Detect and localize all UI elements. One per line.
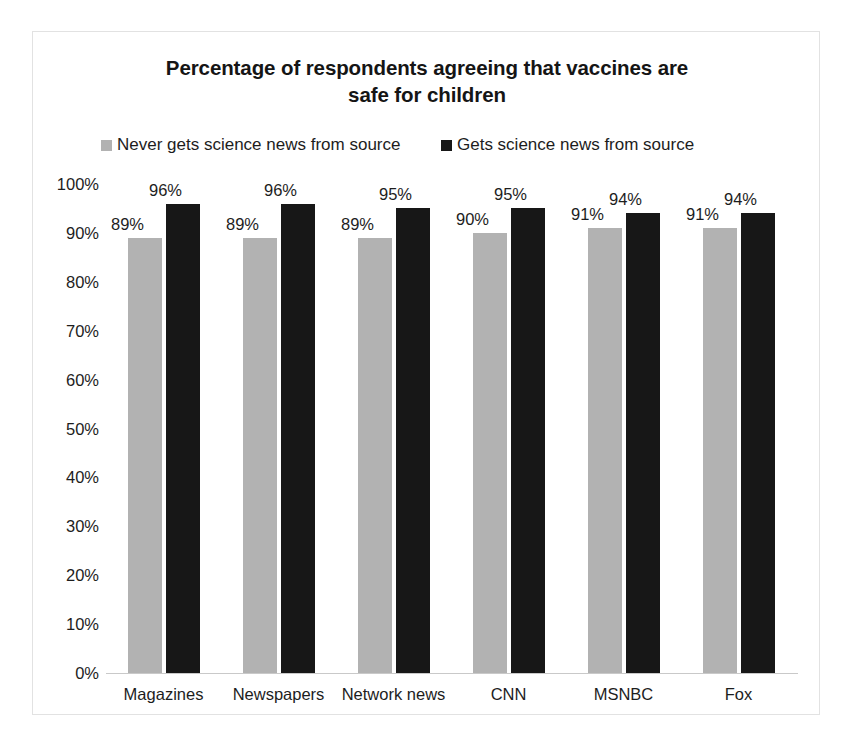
bar-gets-science-news[interactable] [166, 204, 200, 673]
chart-title-line-1: Percentage of respondents agreeing that … [166, 56, 688, 79]
y-axis-tick-label: 90% [45, 223, 99, 242]
bar-group: 90%95% [473, 184, 545, 673]
bar-never-gets-science-news[interactable] [128, 238, 162, 673]
legend-swatch-gets-science-news [441, 140, 452, 151]
bar-value-label: 89% [102, 215, 154, 234]
bar-gets-science-news[interactable] [511, 208, 545, 673]
y-axis: 100%90%80%70%60%50%40%30%20%10%0% [41, 184, 99, 673]
x-axis-category-label: Fox [725, 685, 753, 704]
legend-label-gets-science-news: Gets science news from source [457, 135, 694, 155]
y-axis-tick-label: 0% [45, 664, 99, 683]
bar-gets-science-news[interactable] [396, 208, 430, 673]
bar-value-label: 95% [370, 185, 422, 204]
y-axis-tick-label: 60% [45, 370, 99, 389]
bar-never-gets-science-news[interactable] [588, 228, 622, 673]
bar-value-label: 94% [715, 190, 767, 209]
bar-never-gets-science-news[interactable] [358, 238, 392, 673]
legend-item-never-gets-science-news[interactable]: Never gets science news from source [101, 135, 400, 155]
bar-group: 89%96% [243, 184, 315, 673]
bar-never-gets-science-news[interactable] [703, 228, 737, 673]
bar-gets-science-news[interactable] [626, 213, 660, 673]
bar-value-label: 89% [332, 215, 384, 234]
legend-swatch-never-gets-science-news [101, 140, 112, 151]
bar-value-label: 94% [600, 190, 652, 209]
bar-gets-science-news[interactable] [741, 213, 775, 673]
bar-never-gets-science-news[interactable] [243, 238, 277, 673]
chart-card: Percentage of respondents agreeing that … [32, 31, 820, 715]
y-axis-tick-label: 80% [45, 272, 99, 291]
bar-group: 89%96% [128, 184, 200, 673]
x-axis-category-label: MSNBC [594, 685, 654, 704]
y-axis-tick-label: 10% [45, 615, 99, 634]
bar-value-label: 96% [140, 181, 192, 200]
chart-title: Percentage of respondents agreeing that … [93, 54, 761, 108]
chart-title-line-2: safe for children [348, 83, 506, 106]
legend-label-never-gets-science-news: Never gets science news from source [117, 135, 400, 155]
x-axis-line [106, 673, 798, 674]
bar-group: 91%94% [703, 184, 775, 673]
x-axis-category-label: Magazines [124, 685, 204, 704]
bar-value-label: 95% [485, 185, 537, 204]
y-axis-tick-label: 30% [45, 517, 99, 536]
bar-gets-science-news[interactable] [281, 204, 315, 673]
y-axis-tick-label: 40% [45, 468, 99, 487]
bar-value-label: 90% [447, 210, 499, 229]
bar-group: 89%95% [358, 184, 430, 673]
y-axis-tick-label: 100% [45, 175, 99, 194]
x-axis-category-label: Newspapers [233, 685, 325, 704]
x-axis-category-label: CNN [491, 685, 527, 704]
y-axis-tick-label: 70% [45, 321, 99, 340]
y-axis-tick-label: 50% [45, 419, 99, 438]
bar-group: 91%94% [588, 184, 660, 673]
x-axis-category-label: Network news [342, 685, 446, 704]
bar-value-label: 96% [255, 181, 307, 200]
bar-value-label: 89% [217, 215, 269, 234]
legend-item-gets-science-news[interactable]: Gets science news from source [441, 135, 694, 155]
chart-legend: Never gets science news from source Gets… [33, 135, 821, 159]
bar-never-gets-science-news[interactable] [473, 233, 507, 673]
y-axis-tick-label: 20% [45, 566, 99, 585]
plot-area: 89%96%89%96%89%95%90%95%91%94%91%94% [106, 184, 796, 673]
